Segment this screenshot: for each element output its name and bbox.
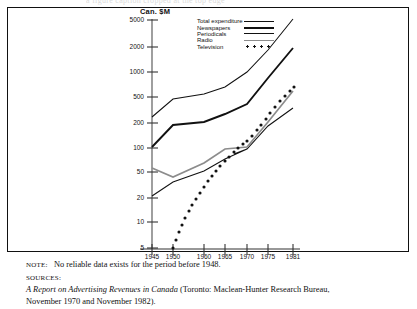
source-citation-line-1: A Report on Advertising Revenues in Cana…	[26, 284, 401, 296]
y-tick-label: 5000	[122, 16, 144, 23]
legend-label: Newspapers	[197, 25, 244, 31]
note-label: NOTE:	[26, 261, 48, 269]
legend-swatch-dotted	[244, 44, 274, 50]
note-text: No reliable data exists for the period b…	[54, 260, 221, 269]
legend-item-television: Television	[197, 44, 274, 50]
y-tick-label: 100	[122, 144, 144, 151]
source-publisher: (Toronto: Maclean-Hunter Research Bureau…	[180, 285, 330, 294]
legend-label: Radio	[197, 37, 244, 43]
legend-item-periodicals: Periodicals	[197, 31, 274, 37]
legend-label: Television	[197, 44, 244, 50]
legend-item-newspapers: Newspapers	[197, 24, 274, 30]
y-tick-label: 500	[122, 93, 144, 100]
y-tick-label: 200	[122, 119, 144, 126]
legend-swatch-line-thin-2	[244, 31, 274, 37]
legend-label: Periodicals	[197, 31, 244, 37]
y-tick-label: 5	[122, 244, 144, 251]
source-title: A Report on Advertising Revenues in Cana…	[26, 285, 178, 294]
y-axis-unit-label: Can. $M	[140, 7, 170, 16]
chart-legend: Total expenditure Newspapers Periodicals…	[197, 18, 274, 50]
y-tick-label: 2000	[122, 43, 144, 50]
legend-swatch-line-thick	[244, 25, 274, 31]
sources-line: SOURCES:	[26, 272, 401, 285]
legend-label: Total expenditure	[197, 18, 244, 24]
y-tick-label: 10	[122, 218, 144, 225]
legend-swatch-line-thin	[244, 18, 274, 24]
y-tick-label: 1000	[122, 68, 144, 75]
legend-swatch-line-gray	[244, 37, 274, 43]
source-citation-line-2: November 1970 and November 1982).	[26, 296, 401, 308]
figure-sheet: a figure caption cropped at the top edge	[0, 0, 417, 309]
legend-item-total-expenditure: Total expenditure	[197, 18, 274, 24]
note-line: NOTE: No reliable data exists for the pe…	[26, 259, 401, 272]
sources-label: SOURCES:	[26, 274, 61, 282]
y-tick-label: 20	[122, 194, 144, 201]
figure-notes: NOTE: No reliable data exists for the pe…	[26, 259, 401, 307]
y-tick-label: 50	[122, 168, 144, 175]
legend-item-radio: Radio	[197, 37, 274, 43]
